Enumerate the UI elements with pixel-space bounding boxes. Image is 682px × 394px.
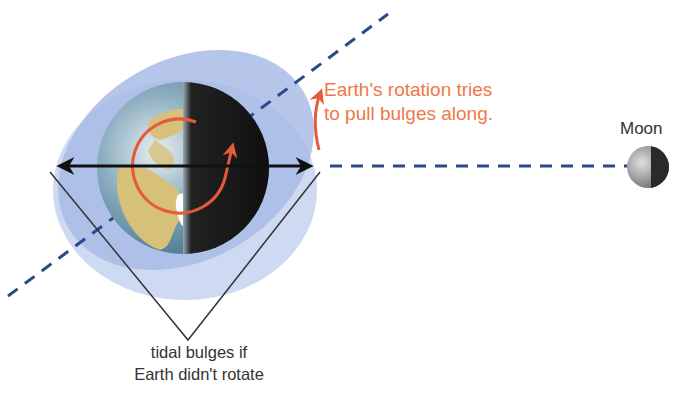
curved-pull-arrow — [315, 94, 320, 150]
bulge-caption-line-2: Earth didn't rotate — [104, 363, 294, 385]
moon-sphere — [627, 140, 676, 194]
bulge-caption: tidal bulges if Earth didn't rotate — [104, 341, 294, 385]
rotation-note-line-2: to pull bulges along. — [324, 102, 493, 126]
rotation-note-line-1: Earth's rotation tries — [324, 78, 493, 102]
rotation-annotation: Earth's rotation tries to pull bulges al… — [324, 78, 493, 126]
bulge-caption-line-1: tidal bulges if — [104, 341, 294, 363]
moon-label: Moon — [620, 119, 663, 139]
tidal-bulge-diagram — [0, 0, 682, 394]
